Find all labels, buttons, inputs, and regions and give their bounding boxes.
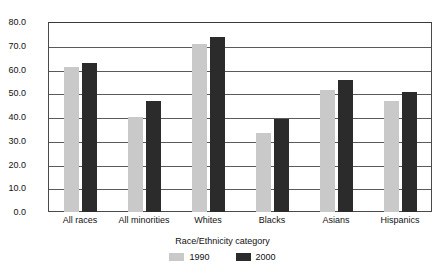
y-axis-tick-label: 40.0 bbox=[0, 113, 26, 122]
bar-group bbox=[112, 22, 176, 212]
x-axis-tick-label: Hispanics bbox=[368, 214, 432, 226]
x-axis-title: Race/Ethnicity category bbox=[0, 236, 445, 247]
y-axis-tick-label: 70.0 bbox=[0, 42, 26, 51]
x-axis-tick-label: Asians bbox=[304, 214, 368, 226]
bar-1990 bbox=[256, 133, 271, 212]
legend-swatch-icon bbox=[169, 253, 184, 261]
y-axis-tick-label: 10.0 bbox=[0, 184, 26, 193]
bar-2000 bbox=[274, 119, 289, 212]
bar-group bbox=[304, 22, 368, 212]
bar-group bbox=[240, 22, 304, 212]
x-axis-tick-label: Whites bbox=[176, 214, 240, 226]
bar-1990 bbox=[384, 101, 399, 212]
legend-item: 2000 bbox=[236, 252, 276, 262]
bar-2000 bbox=[146, 101, 161, 212]
legend-swatch-icon bbox=[236, 253, 251, 261]
bar-group bbox=[48, 22, 112, 212]
bar-2000 bbox=[402, 92, 417, 212]
x-axis-tick-label: All races bbox=[48, 214, 112, 226]
legend-label: 2000 bbox=[256, 252, 276, 262]
y-axis-tick-label: 80.0 bbox=[0, 18, 26, 27]
bar-1990 bbox=[64, 67, 79, 212]
legend-item: 1990 bbox=[169, 252, 209, 262]
bar-2000 bbox=[338, 80, 353, 212]
bar-group bbox=[176, 22, 240, 212]
bar-1990 bbox=[192, 44, 207, 212]
y-axis-tick-label: 30.0 bbox=[0, 137, 26, 146]
legend-label: 1990 bbox=[189, 252, 209, 262]
bar-2000 bbox=[210, 37, 225, 212]
legend: 19902000 bbox=[0, 252, 445, 262]
y-axis-tick-label: 0.0 bbox=[0, 208, 26, 217]
bar-chart: Percent residing in suburbs 80.070.060.0… bbox=[0, 0, 445, 272]
bar-2000 bbox=[82, 63, 97, 212]
x-axis-tick-label: All minorities bbox=[112, 214, 176, 226]
y-axis-tick-label: 50.0 bbox=[0, 89, 26, 98]
bar-1990 bbox=[128, 117, 143, 212]
x-axis-tick-labels: All racesAll minoritiesWhitesBlacksAsian… bbox=[48, 214, 432, 226]
y-axis-tick-label: 60.0 bbox=[0, 66, 26, 75]
bar-group bbox=[368, 22, 432, 212]
bar-groups bbox=[48, 22, 432, 212]
x-axis-tick-label: Blacks bbox=[240, 214, 304, 226]
bar-1990 bbox=[320, 90, 335, 212]
y-axis-tick-label: 20.0 bbox=[0, 161, 26, 170]
